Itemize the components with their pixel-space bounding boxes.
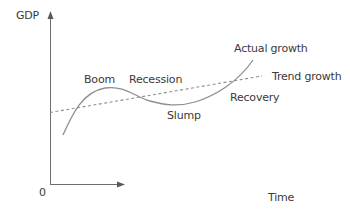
recovery-label: Recovery bbox=[230, 92, 279, 103]
x-axis-label: Time bbox=[268, 192, 294, 203]
x-axis-arrow-icon bbox=[117, 182, 125, 188]
origin-label: 0 bbox=[39, 187, 46, 198]
actual-growth-label: Actual growth bbox=[234, 43, 308, 54]
trend-growth-label: Trend growth bbox=[272, 71, 341, 82]
boom-label: Boom bbox=[84, 74, 115, 85]
slump-label: Slump bbox=[167, 110, 201, 121]
recession-label: Recession bbox=[129, 74, 182, 85]
y-axis-arrow-icon bbox=[48, 11, 54, 19]
business-cycle-diagram bbox=[0, 0, 350, 215]
actual-growth-curve bbox=[63, 60, 253, 135]
y-axis-label: GDP bbox=[16, 10, 39, 21]
